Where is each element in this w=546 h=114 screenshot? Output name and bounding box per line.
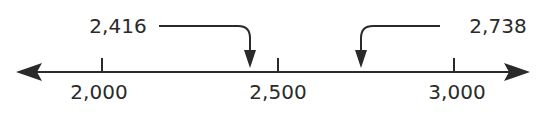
tick-label-3000: 3,000 (428, 80, 485, 104)
down-arrowhead-icon (355, 50, 367, 68)
callout-arrow-2738 (361, 26, 440, 52)
callout-label-2416: 2,416 (89, 14, 146, 38)
tick-label-2000: 2,000 (70, 80, 127, 104)
tick-label-2500: 2,500 (249, 80, 306, 104)
down-arrowhead-icon (244, 50, 256, 68)
callout-label-2738: 2,738 (469, 14, 526, 38)
callout-arrow-2416 (159, 26, 250, 52)
number-line-diagram: 2,000 2,500 3,000 2,416 2,738 (0, 0, 546, 114)
